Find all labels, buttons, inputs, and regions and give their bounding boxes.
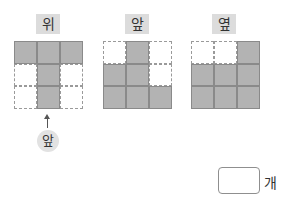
arrow-line xyxy=(47,118,48,128)
empty-cell xyxy=(149,64,172,87)
front-direction-marker: 앞 xyxy=(37,130,59,152)
filled-cell xyxy=(60,41,83,64)
view-label-front: 앞 xyxy=(125,14,149,34)
filled-cell xyxy=(214,86,237,109)
empty-cell xyxy=(103,41,126,64)
empty-cell xyxy=(60,86,83,109)
filled-cell xyxy=(214,64,237,87)
front-view-grid xyxy=(103,41,172,109)
view-label-top: 위 xyxy=(36,14,60,34)
filled-cell xyxy=(103,86,126,109)
filled-cell xyxy=(237,86,260,109)
unit-label: 개 xyxy=(264,172,277,192)
filled-cell xyxy=(14,41,37,64)
filled-cell xyxy=(37,64,60,87)
filled-cell xyxy=(126,86,149,109)
filled-cell xyxy=(126,64,149,87)
empty-cell xyxy=(214,41,237,64)
filled-cell xyxy=(126,41,149,64)
side-view-grid xyxy=(191,41,260,109)
filled-cell xyxy=(37,86,60,109)
filled-cell xyxy=(237,41,260,64)
answer-input-box[interactable] xyxy=(218,167,260,194)
filled-cell xyxy=(191,64,214,87)
empty-cell xyxy=(14,86,37,109)
filled-cell xyxy=(237,64,260,87)
empty-cell xyxy=(60,64,83,87)
view-label-side: 옆 xyxy=(212,14,236,34)
empty-cell xyxy=(14,64,37,87)
empty-cell xyxy=(149,41,172,64)
filled-cell xyxy=(103,64,126,87)
filled-cell xyxy=(191,86,214,109)
filled-cell xyxy=(149,86,172,109)
top-view-grid xyxy=(14,41,83,109)
empty-cell xyxy=(191,41,214,64)
filled-cell xyxy=(37,41,60,64)
